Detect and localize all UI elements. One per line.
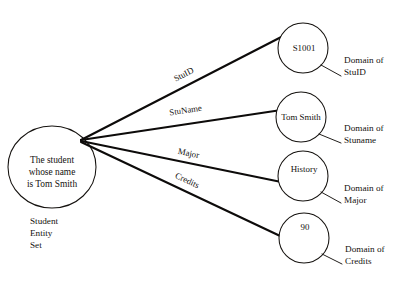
- edge-label-major: Major: [177, 146, 200, 160]
- domain-label-stuname-line-2: Stuname: [344, 135, 376, 145]
- domain-leader-stuname: [319, 134, 341, 143]
- er-domain-diagram: The student whose name is Tom Smith Stud…: [0, 0, 407, 282]
- domain-label-credits-line-2: Credits: [345, 256, 372, 266]
- entity-set-caption-line-3: Set: [30, 240, 42, 250]
- domain-circle-major: [278, 151, 328, 201]
- domain-label-stuid-line-1: Domain of: [344, 55, 384, 65]
- diagram-canvas: The student whose name is Tom Smith Stud…: [0, 0, 407, 282]
- domain-leader-credits: [322, 254, 342, 264]
- edge-label-stuname: StuName: [169, 103, 203, 118]
- domain-label-major-line-1: Domain of: [344, 183, 384, 193]
- domain-label-credits-line-1: Domain of: [345, 244, 385, 254]
- entity-label-line-1: The student: [30, 155, 74, 165]
- edge-label-stuid: StuID: [172, 65, 195, 84]
- entity-label-line-3: is Tom Smith: [27, 179, 78, 189]
- domain-label-stuname-line-1: Domain of: [344, 123, 384, 133]
- domain-label-major-line-2: Major: [344, 195, 366, 205]
- domain-leader-major: [321, 192, 341, 203]
- domain-leader-stuid: [321, 65, 341, 76]
- entity-label-line-2: whose name: [29, 167, 76, 177]
- domain-value-credits: 90: [301, 222, 310, 232]
- entity-set-caption-line-1: Student: [30, 216, 59, 226]
- domain-label-stuid-line-2: StuID: [344, 67, 366, 77]
- domain-value-major: History: [291, 164, 318, 174]
- entity-set-caption-line-2: Entity: [30, 228, 53, 238]
- domain-circle-credits: [279, 213, 329, 263]
- domain-value-stuid: S1001: [293, 43, 316, 53]
- domain-value-stuname: Tom Smith: [281, 112, 321, 122]
